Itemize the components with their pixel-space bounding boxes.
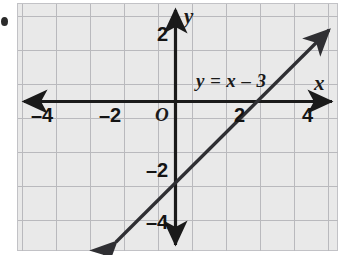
y-tick-label-neg4: –4 <box>146 212 168 232</box>
x-tick-label-neg4: –4 <box>31 105 53 125</box>
graph-figure: y x O y = x – 3 –4 –2 2 4 2 –2 –4 <box>0 0 344 255</box>
x-axis-label: x <box>314 73 325 94</box>
coordinate-plane <box>0 0 344 255</box>
y-axis-label: y <box>184 6 193 27</box>
y-tick-label-neg2: –2 <box>146 160 168 180</box>
x-tick-label-2: 2 <box>234 105 245 125</box>
y-tick-label-2: 2 <box>157 24 168 44</box>
origin-label: O <box>155 105 169 124</box>
x-tick-label-neg2: –2 <box>99 105 121 125</box>
equation-label: y = x – 3 <box>196 71 266 90</box>
grid-panel <box>18 4 338 251</box>
x-tick-label-4: 4 <box>302 105 313 125</box>
